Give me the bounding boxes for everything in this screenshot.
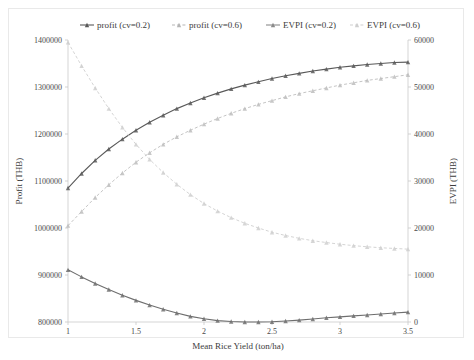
series-line: [68, 270, 408, 322]
y-axis-right-tick-label: 10000: [414, 271, 434, 280]
x-axis-tick-label: 3.5: [403, 327, 413, 336]
data-point-marker: [188, 128, 192, 132]
y-axis-right-tick-label: 30000: [414, 177, 434, 186]
y-axis-right-tick-label: 0: [414, 318, 418, 327]
data-point-marker: [66, 268, 70, 272]
data-point-marker: [215, 209, 219, 213]
y-axis-left-tick-label: 800000: [38, 318, 62, 327]
y-axis-left-tick-label: 900000: [38, 271, 62, 280]
y-axis-left-tick-label: 1300000: [34, 83, 62, 92]
y-axis-left-tick-label: 1000000: [34, 224, 62, 233]
x-axis-tick-label: 2.5: [267, 327, 277, 336]
x-axis-title: Mean Rice Yield (ton/ha): [192, 341, 283, 351]
x-axis-tick-label: 2: [202, 327, 206, 336]
x-axis-tick-label: 1: [66, 327, 70, 336]
data-point-marker: [147, 151, 151, 155]
data-point-marker: [120, 171, 124, 175]
data-point-marker: [79, 64, 83, 68]
series-line: [68, 62, 408, 188]
data-point-marker: [175, 135, 179, 139]
data-point-marker: [243, 221, 247, 225]
series-line: [68, 75, 408, 226]
x-axis-tick-label: 1.5: [131, 327, 141, 336]
y-axis-right-tick-label: 20000: [414, 224, 434, 233]
legend-label-0: profit (cv=0.2): [97, 20, 150, 30]
data-point-marker: [215, 116, 219, 120]
legend-label-2: EVPI (cv=0.2): [283, 20, 336, 30]
legend-label-1: profit (cv=0.6): [189, 20, 242, 30]
data-point-marker: [229, 111, 233, 115]
y-axis-right-title: EVPI (THB): [448, 158, 458, 204]
data-point-marker: [202, 122, 206, 126]
y-axis-right-tick-label: 40000: [414, 130, 434, 139]
data-point-marker: [93, 281, 97, 285]
series-3: [66, 40, 410, 251]
data-point-marker: [93, 86, 97, 90]
data-point-marker: [229, 215, 233, 219]
data-point-marker: [256, 226, 260, 230]
data-point-marker: [93, 195, 97, 199]
y-axis-right-tick-label: 60000: [414, 36, 434, 45]
chart-legend: profit (cv=0.2)profit (cv=0.6)EVPI (cv=0…: [80, 20, 420, 30]
data-point-marker: [243, 106, 247, 110]
data-point-marker: [161, 113, 165, 117]
series-1: [66, 268, 410, 325]
y-axis-right-tick-label: 50000: [414, 83, 434, 92]
data-point-marker: [147, 120, 151, 124]
legend-label-3: EVPI (cv=0.6): [367, 20, 420, 30]
data-point-marker: [161, 142, 165, 146]
data-point-marker: [161, 170, 165, 174]
series-2: [66, 73, 410, 228]
data-point-marker: [66, 40, 70, 44]
series-0: [66, 60, 410, 190]
y-axis-left-tick-label: 1200000: [34, 130, 62, 139]
y-axis-left-title: Profit (THB): [14, 158, 24, 205]
chart-figure: 8000009000001000000110000012000001300000…: [0, 0, 474, 360]
series-line: [68, 42, 408, 249]
chart-canvas: 8000009000001000000110000012000001300000…: [0, 0, 474, 360]
x-axis-tick-label: 3: [338, 327, 342, 336]
data-point-marker: [202, 201, 206, 205]
data-point-marker: [107, 287, 111, 291]
y-axis-left-tick-label: 1100000: [34, 177, 62, 186]
data-point-marker: [175, 106, 179, 110]
data-point-marker: [79, 275, 83, 279]
y-axis-left-tick-label: 1400000: [34, 36, 62, 45]
